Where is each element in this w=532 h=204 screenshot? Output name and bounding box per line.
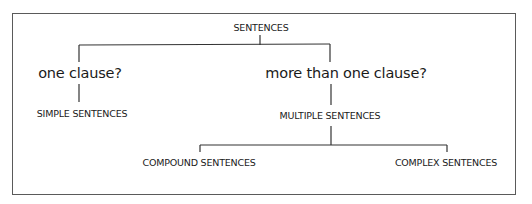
multiple-sentences-label: MULTIPLE SENTENCES: [280, 111, 381, 121]
root-label: SENTENCES: [234, 23, 289, 33]
right-question-label: more than one clause?: [265, 66, 426, 81]
left-question-label: one clause?: [38, 66, 122, 81]
top-branch-line: [79, 44, 330, 45]
simple-sentences-label: SIMPLE SENTENCES: [37, 109, 128, 119]
compound-sentences-label: COMPOUND SENTENCES: [142, 158, 255, 168]
complex-sentences-label: COMPLEX SENTENCES: [395, 158, 497, 168]
